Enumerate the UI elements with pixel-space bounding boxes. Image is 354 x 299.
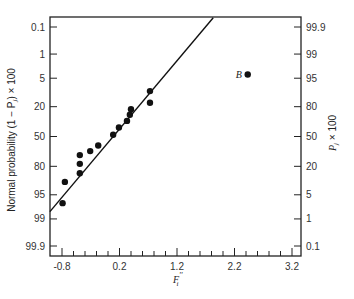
outlier-point-b [245, 71, 251, 77]
data-point [128, 106, 134, 112]
data-point [124, 118, 130, 124]
data-point [77, 161, 83, 167]
outlier-label-b: B [236, 69, 242, 80]
left-axis-label: Normal probability (1 − Pj) × 100 [6, 68, 19, 212]
left-tick-label: 95 [34, 189, 46, 200]
x-axis-ticks: -0.80.21.22.23.2 [53, 248, 299, 272]
left-tick-label: 20 [34, 101, 46, 112]
left-tick-label: 1 [39, 49, 45, 60]
left-tick-label: 0.1 [31, 22, 45, 33]
right-y-axis-ticks: 99.99995805020510.1 [294, 22, 326, 252]
x-axis-label: F''i [172, 271, 183, 288]
right-tick-label: 50 [306, 131, 318, 142]
left-y-axis-ticks: 0.115205080959999.9 [26, 22, 57, 252]
right-axis-label: Pj × 100 [327, 114, 340, 152]
right-tick-label: 99.9 [306, 22, 326, 33]
data-point [116, 124, 122, 130]
right-tick-label: 0.1 [306, 241, 320, 252]
left-tick-label: 80 [34, 161, 46, 172]
left-tick-label: 5 [39, 73, 45, 84]
x-tick-label: 2.2 [228, 261, 242, 272]
left-tick-label: 99 [34, 213, 46, 224]
x-tick-label: 3.2 [285, 261, 299, 272]
plot-frame [50, 17, 301, 256]
right-tick-label: 20 [306, 161, 318, 172]
right-tick-label: 80 [306, 101, 318, 112]
x-tick-label: -0.8 [53, 261, 71, 272]
data-point [77, 152, 83, 158]
data-point [87, 148, 93, 154]
normal-probability-plot: 0.115205080959999.9 99.99995805020510.1 … [0, 0, 354, 299]
left-tick-label: 50 [34, 131, 46, 142]
data-point [147, 88, 153, 94]
data-point [110, 132, 116, 138]
data-points [59, 71, 251, 206]
data-point [62, 179, 68, 185]
data-point [147, 99, 153, 105]
x-tick-label: 0.2 [113, 261, 127, 272]
right-tick-label: 5 [306, 189, 312, 200]
data-point [127, 112, 133, 118]
data-point [95, 142, 101, 148]
data-point [77, 170, 83, 176]
right-tick-label: 95 [306, 73, 318, 84]
right-tick-label: 99 [306, 49, 318, 60]
data-point [59, 200, 65, 206]
right-tick-label: 1 [306, 213, 312, 224]
left-tick-label: 99.9 [26, 241, 46, 252]
